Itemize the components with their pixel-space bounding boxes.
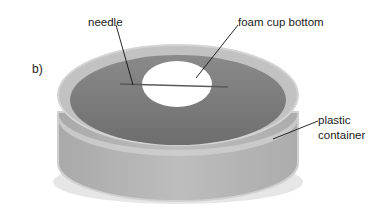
petri-dish-diagram — [0, 0, 382, 215]
label-plastic: plastic — [318, 114, 351, 127]
panel-label: b) — [32, 63, 43, 76]
foam-disk — [142, 61, 212, 107]
label-container: container — [318, 129, 365, 142]
label-needle: needle — [88, 16, 123, 29]
label-foam-cup-bottom: foam cup bottom — [238, 16, 324, 29]
